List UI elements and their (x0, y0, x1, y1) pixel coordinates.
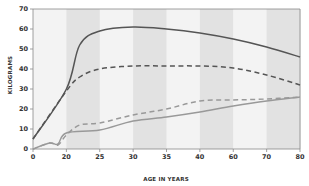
x-tick-label: 80 (295, 153, 305, 161)
line-chart: 010203040506070 02025303540607080 KILOGR… (0, 0, 309, 186)
background-band (66, 9, 100, 149)
y-tick-label: 20 (19, 105, 29, 113)
x-tick-label: 40 (195, 153, 205, 161)
x-tick-label: 0 (31, 153, 36, 161)
y-tick-label: 30 (19, 85, 29, 93)
x-tick-label: 25 (95, 153, 105, 161)
background-band (33, 9, 67, 149)
background-band (200, 9, 234, 149)
y-tick-label: 10 (19, 125, 29, 133)
background-bands (33, 9, 301, 149)
y-tick-label: 50 (19, 45, 29, 53)
y-tick-label: 70 (19, 5, 29, 13)
x-tick-label: 20 (62, 153, 72, 161)
background-band (267, 9, 301, 149)
x-axis: 02025303540607080 (31, 149, 305, 161)
y-axis-title: KILOGRAMS (7, 56, 13, 95)
x-tick-label: 70 (262, 153, 272, 161)
x-tick-label: 35 (162, 153, 172, 161)
background-band (133, 9, 167, 149)
y-tick-label: 40 (19, 65, 29, 73)
x-tick-label: 60 (229, 153, 239, 161)
background-band (233, 9, 267, 149)
y-axis: 010203040506070 (19, 5, 33, 153)
y-tick-label: 0 (23, 145, 28, 153)
y-tick-label: 60 (19, 25, 29, 33)
x-tick-label: 30 (129, 153, 139, 161)
x-axis-title: AGE IN YEARS (143, 176, 189, 182)
